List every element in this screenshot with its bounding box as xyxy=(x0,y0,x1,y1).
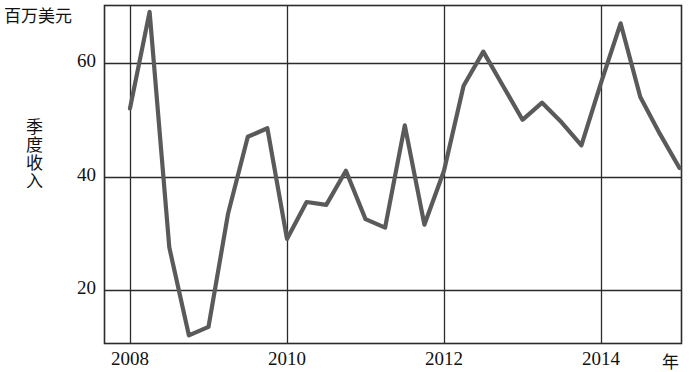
line-chart: 百万美元 季度收入 年 60 40 20 2008 2010 2012 2014 xyxy=(0,0,691,372)
plot-frame-border xyxy=(105,6,682,344)
gridlines xyxy=(105,6,682,344)
plot-area xyxy=(0,0,691,372)
data-series-line xyxy=(130,12,680,336)
